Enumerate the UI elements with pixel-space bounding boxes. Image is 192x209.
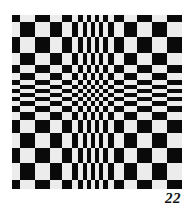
dark-cell	[114, 89, 124, 93]
dark-cell	[91, 93, 95, 97]
light-cell	[99, 15, 103, 22]
light-cell	[108, 80, 114, 85]
light-cell	[62, 93, 72, 97]
light-cell	[167, 133, 182, 148]
dark-cell	[83, 93, 87, 97]
dark-cell	[78, 65, 83, 73]
light-cell	[50, 148, 62, 163]
dark-cell	[103, 89, 108, 93]
dark-cell	[167, 106, 182, 112]
light-cell	[35, 73, 50, 80]
light-cell	[20, 106, 35, 112]
light-cell	[35, 112, 50, 120]
light-cell	[20, 120, 35, 133]
dark-cell	[103, 37, 108, 53]
dark-cell	[91, 163, 95, 180]
dark-cell	[50, 93, 62, 97]
light-cell	[95, 73, 99, 80]
light-cell	[83, 106, 87, 112]
light-cell	[72, 65, 78, 73]
light-cell	[78, 85, 83, 89]
light-cell	[167, 85, 182, 89]
light-cell	[95, 112, 99, 120]
dark-cell	[108, 163, 114, 180]
dark-cell	[83, 22, 87, 37]
dark-cell	[35, 89, 50, 93]
light-cell	[108, 65, 114, 73]
dark-cell	[95, 120, 99, 133]
distorted-checkerboard	[0, 0, 192, 209]
dark-cell	[167, 148, 182, 163]
light-cell	[91, 80, 95, 85]
dark-cell	[62, 106, 72, 112]
dark-cell	[114, 148, 124, 163]
light-cell	[35, 93, 50, 97]
dark-cell	[20, 163, 35, 180]
dark-cell	[50, 22, 62, 37]
light-cell	[50, 120, 62, 133]
light-cell	[72, 89, 78, 93]
light-cell	[87, 93, 91, 97]
dark-cell	[103, 180, 108, 189]
dark-cell	[20, 93, 35, 97]
dark-cell	[137, 89, 152, 93]
dark-cell	[108, 133, 114, 148]
light-cell	[87, 53, 91, 65]
light-cell	[99, 37, 103, 53]
dark-cell	[108, 85, 114, 89]
dark-cell	[35, 120, 50, 133]
light-cell	[124, 106, 137, 112]
dark-cell	[103, 80, 108, 85]
dark-cell	[78, 15, 83, 22]
light-cell	[87, 22, 91, 37]
dark-cell	[103, 148, 108, 163]
light-cell	[152, 120, 167, 133]
dark-cell	[20, 133, 35, 148]
dark-cell	[83, 112, 87, 120]
light-cell	[62, 73, 72, 80]
light-cell	[50, 106, 62, 112]
dark-cell	[114, 80, 124, 85]
light-cell	[91, 37, 95, 53]
dark-cell	[114, 180, 124, 189]
dark-cell	[62, 80, 72, 85]
dark-cell	[108, 53, 114, 65]
light-cell	[137, 73, 152, 80]
light-cell	[50, 97, 62, 101]
dark-cell	[50, 73, 62, 80]
light-cell	[114, 101, 124, 106]
dark-cell	[91, 22, 95, 37]
light-cell	[137, 101, 152, 106]
dark-cell	[167, 65, 182, 73]
light-cell	[152, 89, 167, 93]
light-cell	[103, 53, 108, 65]
light-cell	[167, 101, 182, 106]
light-cell	[114, 112, 124, 120]
light-cell	[83, 37, 87, 53]
dark-cell	[152, 112, 167, 120]
light-cell	[12, 93, 20, 97]
light-cell	[83, 65, 87, 73]
dark-cell	[124, 112, 137, 120]
dark-cell	[114, 15, 124, 22]
dark-cell	[137, 80, 152, 85]
dark-cell	[108, 112, 114, 120]
light-cell	[35, 163, 50, 180]
light-cell	[108, 97, 114, 101]
light-cell	[78, 163, 83, 180]
dark-cell	[152, 163, 167, 180]
light-cell	[103, 112, 108, 120]
light-cell	[83, 15, 87, 22]
light-cell	[91, 89, 95, 93]
dark-cell	[91, 53, 95, 65]
dark-cell	[91, 133, 95, 148]
light-cell	[137, 93, 152, 97]
light-cell	[72, 97, 78, 101]
light-cell	[137, 133, 152, 148]
light-cell	[124, 97, 137, 101]
light-cell	[35, 22, 50, 37]
dark-cell	[167, 80, 182, 85]
light-cell	[114, 22, 124, 37]
light-cell	[124, 37, 137, 53]
dark-cell	[50, 85, 62, 89]
